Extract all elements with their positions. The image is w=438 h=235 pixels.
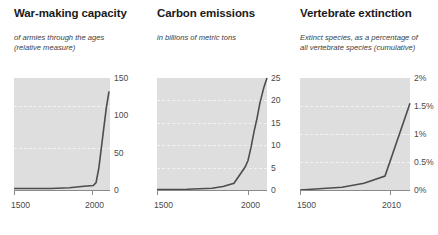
panel-title: War-making capacity	[14, 7, 127, 19]
y-tick-label: 2%	[414, 73, 426, 83]
chart-panel-war-making-capacity: War-making capacity of armies through th…	[0, 0, 143, 235]
x-tick-label: 1500	[154, 200, 173, 210]
x-tick-label: 2000	[85, 200, 104, 210]
x-tick-2010	[390, 190, 391, 195]
x-tick-2000	[92, 190, 93, 195]
y-tick-label: 0	[271, 185, 276, 195]
y-tick-label: 10	[271, 140, 281, 150]
x-axis-line	[157, 190, 267, 191]
x-axis-line	[300, 190, 410, 191]
x-tick-label: 2000	[241, 200, 260, 210]
y-axis-labels: 150 100 50 0	[110, 78, 143, 190]
x-tick-label: 2010	[382, 200, 401, 210]
y-tick-label: 1.5%	[414, 101, 434, 111]
x-tick-2000	[248, 190, 249, 195]
y-tick-label: 5	[271, 163, 276, 173]
data-line-carbon-emissions	[157, 78, 267, 190]
panel-title: Vertebrate extinction	[300, 7, 412, 19]
x-tick-label: 1500	[11, 200, 30, 210]
y-tick-label: 0%	[414, 185, 426, 195]
y-tick-label: 20	[271, 95, 281, 105]
data-line-vertebrate-extinction	[300, 78, 410, 190]
y-tick-label: 15	[271, 118, 281, 128]
panel-subtitle: in billions of metric tons	[157, 33, 236, 43]
chart-panel-carbon-emissions: Carbon emissions in billions of metric t…	[143, 0, 286, 235]
x-tick-1500	[14, 190, 15, 195]
x-tick-1500	[157, 190, 158, 195]
panel-subtitle: Extinct species, as a percentage of all …	[300, 33, 418, 53]
plot-area	[300, 78, 410, 190]
plot-area	[14, 78, 110, 190]
y-tick-label: 50	[114, 148, 124, 158]
plot-area	[157, 78, 267, 190]
chart-panel-vertebrate-extinction: Vertebrate extinction Extinct species, a…	[286, 0, 427, 235]
panel-subtitle: of armies through the ages (relative mea…	[14, 33, 104, 53]
y-tick-label: 25	[271, 73, 281, 83]
y-tick-label: 1%	[414, 129, 426, 139]
y-tick-label: 0.5%	[414, 157, 434, 167]
x-tick-1500	[300, 190, 301, 195]
x-tick-label: 1500	[297, 200, 316, 210]
x-axis-line	[14, 190, 110, 191]
data-line-war-making-capacity	[14, 78, 110, 190]
y-tick-label: 100	[114, 110, 128, 120]
panel-title: Carbon emissions	[157, 7, 255, 19]
y-axis-labels: 2% 1.5% 1% 0.5% 0%	[410, 78, 438, 190]
y-tick-label: 0	[114, 185, 119, 195]
y-tick-label: 150	[114, 73, 128, 83]
